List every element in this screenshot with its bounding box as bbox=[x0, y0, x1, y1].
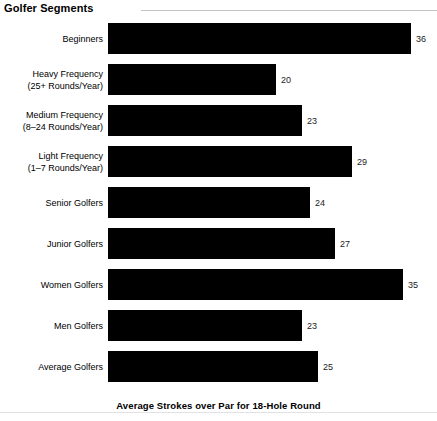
bar-row: Women Golfers35 bbox=[0, 264, 437, 305]
bar-row: Beginners36 bbox=[0, 18, 437, 59]
bar-category-label-line1: Senior Golfers bbox=[45, 197, 103, 209]
bar-track: 36 bbox=[108, 23, 437, 54]
bar-track: 25 bbox=[108, 351, 437, 382]
bar-category-label-line1: Beginners bbox=[62, 33, 103, 45]
bar-category-label: Men Golfers bbox=[0, 305, 103, 346]
bar[interactable] bbox=[108, 269, 403, 300]
bar-category-label: Women Golfers bbox=[0, 264, 103, 305]
bar-track: 35 bbox=[108, 269, 437, 300]
bar-category-label-line1: Light Frequency bbox=[38, 150, 103, 162]
bar-category-label: Medium Frequency(8–24 Rounds/Year) bbox=[0, 100, 103, 141]
bar[interactable] bbox=[108, 187, 310, 218]
bar-value-label: 23 bbox=[307, 116, 317, 126]
bar-value-label: 20 bbox=[281, 75, 291, 85]
scan-artifact-line-bottom bbox=[0, 412, 437, 413]
bar-value-label: 35 bbox=[408, 280, 418, 290]
bar-category-label: Junior Golfers bbox=[0, 223, 103, 264]
bar-value-label: 23 bbox=[307, 321, 317, 331]
bar-category-label-line1: Heavy Frequency bbox=[32, 68, 103, 80]
bar-category-label: Beginners bbox=[0, 18, 103, 59]
bar-track: 23 bbox=[108, 105, 437, 136]
bar[interactable] bbox=[108, 105, 302, 136]
chart-page: Golfer Segments Beginners36Heavy Frequen… bbox=[0, 0, 437, 421]
bar-category-label-line2: (1–7 Rounds/Year) bbox=[28, 162, 103, 174]
bar-track: 29 bbox=[108, 146, 437, 177]
bar-row: Medium Frequency(8–24 Rounds/Year)23 bbox=[0, 100, 437, 141]
bar[interactable] bbox=[108, 310, 302, 341]
bar-row: Senior Golfers24 bbox=[0, 182, 437, 223]
bar-row: Junior Golfers27 bbox=[0, 223, 437, 264]
x-axis-label: Average Strokes over Par for 18-Hole Rou… bbox=[0, 400, 437, 411]
bar-category-label-line2: (8–24 Rounds/Year) bbox=[23, 121, 103, 133]
bar-value-label: 27 bbox=[340, 239, 350, 249]
bar-category-label: Heavy Frequency(25+ Rounds/Year) bbox=[0, 59, 103, 100]
bar[interactable] bbox=[108, 64, 276, 95]
bar-row: Light Frequency(1–7 Rounds/Year)29 bbox=[0, 141, 437, 182]
bar-track: 27 bbox=[108, 228, 437, 259]
bar-track: 24 bbox=[108, 187, 437, 218]
bar-chart-plot-area: Beginners36Heavy Frequency(25+ Rounds/Ye… bbox=[0, 18, 437, 393]
bar-value-label: 29 bbox=[357, 157, 367, 167]
chart-title: Golfer Segments bbox=[4, 2, 94, 14]
bar-track: 20 bbox=[108, 64, 437, 95]
bar-category-label-line1: Men Golfers bbox=[54, 320, 103, 332]
scan-artifact-line bbox=[141, 10, 437, 11]
bar[interactable] bbox=[108, 351, 318, 382]
bar-track: 23 bbox=[108, 310, 437, 341]
bar-category-label: Light Frequency(1–7 Rounds/Year) bbox=[0, 141, 103, 182]
bar-category-label: Average Golfers bbox=[0, 346, 103, 387]
bar-category-label: Senior Golfers bbox=[0, 182, 103, 223]
bar-category-label-line2: (25+ Rounds/Year) bbox=[28, 80, 103, 92]
bar[interactable] bbox=[108, 228, 335, 259]
bar-category-label-line1: Junior Golfers bbox=[47, 238, 103, 250]
bar-row: Average Golfers25 bbox=[0, 346, 437, 387]
bar[interactable] bbox=[108, 146, 352, 177]
bar-value-label: 24 bbox=[315, 198, 325, 208]
bar-category-label-line1: Women Golfers bbox=[41, 279, 103, 291]
bar-category-label-line1: Average Golfers bbox=[38, 361, 103, 373]
bar[interactable] bbox=[108, 23, 411, 54]
bar-value-label: 36 bbox=[416, 34, 426, 44]
bar-value-label: 25 bbox=[323, 362, 333, 372]
bar-category-label-line1: Medium Frequency bbox=[26, 109, 103, 121]
bar-row: Men Golfers23 bbox=[0, 305, 437, 346]
bar-row: Heavy Frequency(25+ Rounds/Year)20 bbox=[0, 59, 437, 100]
